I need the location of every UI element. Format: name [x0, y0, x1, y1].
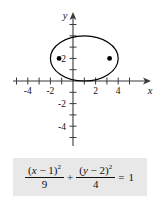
fraction-y-numerator: (y − 2)2	[76, 165, 115, 177]
graph-svg: -4 -2 2 4 2 -2 -4 x y	[0, 0, 160, 152]
focus-point-right	[107, 56, 112, 61]
minus-sign-y: −	[88, 164, 100, 176]
x-tick-label-4: 4	[116, 86, 121, 96]
equation-caption-box: (x − 1)2 9 + (y − 2)2 4 = 1	[13, 158, 147, 196]
equals-operator: =	[118, 172, 124, 183]
fraction-x-denominator: 9	[39, 178, 51, 190]
y-tick-label-2: 2	[61, 54, 66, 64]
x-axis-label: x	[147, 85, 153, 96]
y-axis-label: y	[62, 10, 68, 21]
y-tick-label-neg4: -4	[58, 122, 66, 132]
minus-sign-x: −	[37, 164, 49, 176]
fraction-x-numerator: (x − 1)2	[25, 165, 64, 177]
x-tick-label-neg4: -4	[24, 86, 32, 96]
fraction-y-term: (y − 2)2 4	[76, 165, 115, 190]
exponent-y-term: 2	[109, 163, 113, 171]
ellipse-equation: (x − 1)2 9 + (y − 2)2 4 = 1	[24, 165, 136, 190]
ellipse-figure: -4 -2 2 4 2 -2 -4 x y (x − 1)2 9 + (y − …	[0, 0, 160, 201]
x-tick-label-neg2: -2	[46, 86, 54, 96]
coordinate-graph: -4 -2 2 4 2 -2 -4 x y	[0, 0, 160, 152]
x-tick-label-2: 2	[93, 86, 98, 96]
equation-right-side: 1	[128, 172, 134, 183]
exponent-x-term: 2	[58, 163, 62, 171]
fraction-x-term: (x − 1)2 9	[25, 165, 64, 190]
fraction-y-denominator: 4	[90, 178, 102, 190]
y-tick-label-neg2: -2	[58, 99, 66, 109]
plus-operator: +	[67, 172, 73, 183]
